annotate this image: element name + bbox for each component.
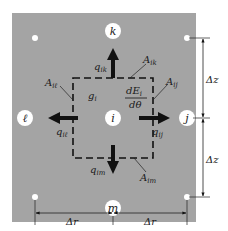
svg-text:ℓ: ℓ	[23, 112, 28, 125]
node-l: ℓ	[17, 110, 33, 126]
node-j: j	[179, 110, 195, 126]
label-dz-top: Δz	[205, 74, 219, 85]
svg-text:k: k	[110, 25, 117, 38]
label-dr-left: Δr	[65, 216, 79, 227]
label-dz-bottom: Δz	[205, 154, 219, 165]
label-dr-right: Δr	[143, 216, 157, 227]
node-k: k	[105, 23, 121, 39]
node-i: i	[105, 110, 121, 126]
svg-text:i: i	[111, 112, 115, 125]
corner-node-bottom-left	[32, 194, 38, 200]
svg-text:dθ: dθ	[129, 99, 141, 110]
node-m: m	[105, 200, 121, 216]
corner-node-top-left	[32, 35, 38, 41]
control-volume-diagram: k ℓ i j m qik qiℓ qij qim Aiℓ Aik Aij Ai…	[0, 0, 228, 231]
